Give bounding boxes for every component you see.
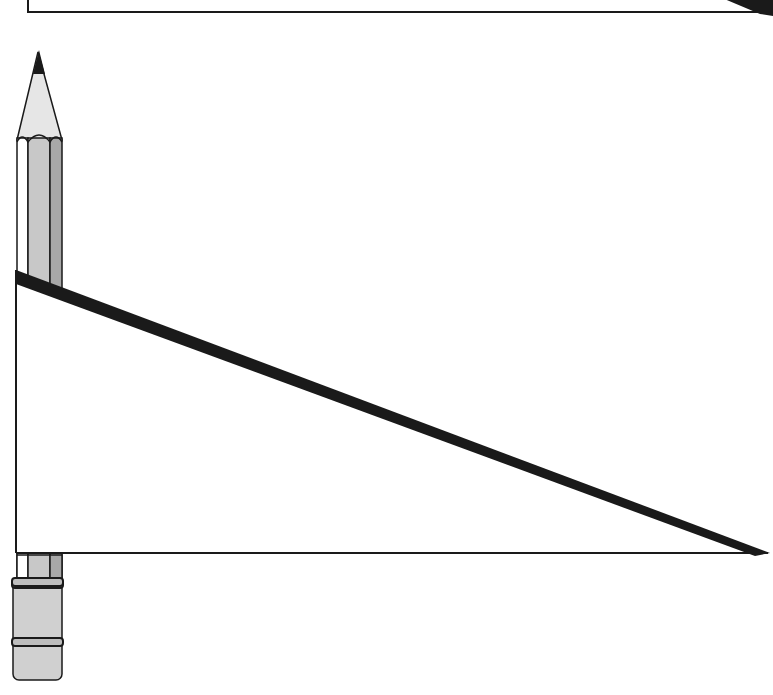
- top-triangle: [28, 0, 773, 16]
- pencil-lower-segment: [12, 555, 63, 586]
- eraser: [13, 580, 62, 680]
- main-triangle: [16, 270, 770, 556]
- diagram-canvas: [0, 0, 773, 695]
